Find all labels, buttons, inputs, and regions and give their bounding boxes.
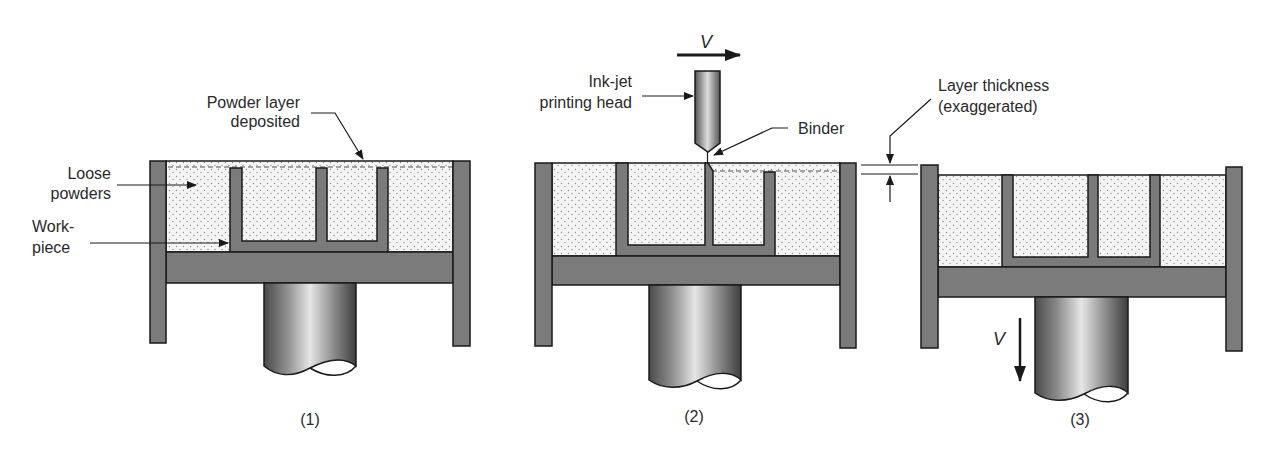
label-loose-powders-1: Loose: [67, 165, 111, 182]
piston-break-edge: [310, 366, 356, 375]
loose-powder-bed: [166, 161, 453, 252]
label-loose-powders-2: powders: [51, 185, 111, 202]
caption-step-2: (2): [684, 408, 704, 425]
build-platform: [938, 267, 1226, 297]
label-layer-thickness-2: (exaggerated): [938, 98, 1038, 115]
piston-rod: [264, 283, 356, 375]
left-wall: [150, 161, 166, 343]
piston-rod: [649, 285, 741, 387]
step-3-platform-lowered: [921, 165, 1242, 402]
label-inkjet-2: printing head: [539, 94, 632, 111]
piston-rod: [1035, 297, 1128, 400]
caption-step-1: (1): [300, 411, 320, 428]
piston-break-edge: [1084, 393, 1128, 402]
right-wall: [453, 161, 470, 346]
right-wall: [840, 163, 856, 348]
caption-step-3: (3): [1070, 411, 1090, 428]
label-layer-thickness-1: Layer thickness: [938, 77, 1049, 94]
build-platform: [166, 252, 453, 283]
loose-powder-bed: [938, 175, 1226, 267]
binder-leader: [714, 128, 788, 155]
build-platform: [552, 256, 840, 285]
loose-powder-bed: [552, 163, 840, 256]
left-wall: [535, 163, 552, 346]
inkjet-printing-head: [695, 71, 720, 163]
label-binder: Binder: [798, 120, 845, 137]
3d-printing-process-diagram: Powder layer deposited Loose powders Wor…: [0, 0, 1269, 457]
right-wall: [1226, 167, 1242, 351]
left-wall: [921, 165, 938, 348]
label-powder-layer-2: deposited: [231, 113, 300, 130]
arrow-down-icon: [890, 99, 931, 163]
label-velocity-vertical: V: [993, 329, 1007, 349]
label-velocity-horizontal: V: [700, 32, 714, 52]
label-powder-layer-1: Powder layer: [207, 94, 301, 111]
label-workpiece-2: piece: [32, 239, 70, 256]
printhead-nozzle-icon: [695, 71, 720, 152]
piston-break-edge: [697, 380, 741, 389]
powder-layer-leader: [311, 113, 363, 159]
label-workpiece-1: Work-: [32, 218, 74, 235]
label-inkjet-1: Ink-jet: [588, 73, 632, 90]
step-1-powder-deposition: [150, 161, 470, 375]
